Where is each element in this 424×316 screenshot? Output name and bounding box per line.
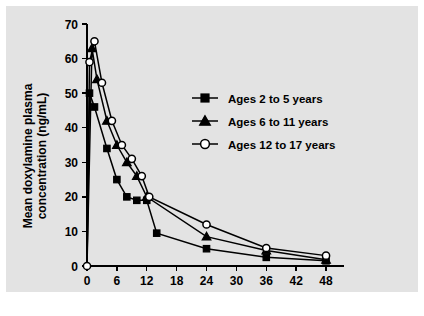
y-axis-title-line1: Mean doxylamine plasma bbox=[21, 83, 35, 228]
chart-legend: Ages 2 to 5 yearsAges 6 to 11 yearsAges … bbox=[192, 93, 335, 151]
marker-open-circle bbox=[83, 262, 90, 269]
marker-open-circle bbox=[91, 38, 98, 45]
x-tick-label: 24 bbox=[200, 274, 214, 288]
legend-label: Ages 12 to 17 years bbox=[228, 139, 335, 151]
marker-filled-square bbox=[104, 145, 110, 151]
marker-open-circle bbox=[146, 193, 153, 200]
marker-open-circle bbox=[322, 252, 329, 259]
x-tick-label: 0 bbox=[84, 274, 91, 288]
marker-filled-square bbox=[263, 254, 269, 260]
marker-filled-square bbox=[124, 194, 130, 200]
x-tick-label: 18 bbox=[170, 274, 184, 288]
x-tick-label: 6 bbox=[114, 274, 121, 288]
x-tick-label: 36 bbox=[260, 274, 274, 288]
marker-filled-square bbox=[114, 176, 120, 182]
y-axis-title: Mean doxylamine plasma concentration (ng… bbox=[21, 83, 49, 228]
legend-entry: Ages 12 to 17 years bbox=[192, 139, 335, 151]
x-tick-label: 42 bbox=[289, 274, 303, 288]
marker-filled-square bbox=[154, 230, 160, 236]
marker-filled-square bbox=[203, 246, 209, 252]
marker-open-circle bbox=[98, 79, 105, 86]
x-axis-ticks: 0612182430364248 bbox=[84, 266, 333, 288]
y-tick-label: 70 bbox=[65, 18, 79, 32]
marker-open-circle bbox=[118, 141, 125, 148]
x-tick-label: 30 bbox=[230, 274, 244, 288]
series-3 bbox=[86, 38, 330, 266]
marker-open-circle bbox=[86, 58, 93, 65]
y-axis-ticks: 010203040506070 bbox=[65, 18, 87, 274]
marker-open-circle bbox=[203, 221, 210, 228]
chart-panel: Mean doxylamine plasma concentration (ng… bbox=[6, 6, 418, 292]
y-tick-label: 40 bbox=[65, 121, 79, 135]
x-tick-label: 48 bbox=[319, 274, 333, 288]
marker-open-circle bbox=[263, 244, 270, 251]
series-2 bbox=[87, 44, 330, 266]
legend-entry: Ages 2 to 5 years bbox=[192, 93, 323, 105]
marker-open-circle bbox=[128, 155, 135, 162]
y-tick-label: 10 bbox=[65, 225, 79, 239]
marker-open-circle bbox=[138, 173, 145, 180]
x-tick-label: 12 bbox=[140, 274, 154, 288]
y-tick-label: 30 bbox=[65, 156, 79, 170]
series-layer bbox=[83, 38, 330, 270]
legend-entry: Ages 6 to 11 years bbox=[192, 116, 328, 128]
y-tick-label: 60 bbox=[65, 52, 79, 66]
marker-open-circle bbox=[108, 117, 115, 124]
marker-filled-square bbox=[134, 197, 140, 203]
pharmacokinetic-line-chart: Mean doxylamine plasma concentration (ng… bbox=[6, 6, 418, 292]
y-tick-label: 0 bbox=[71, 260, 78, 274]
marker-open-circle bbox=[201, 140, 210, 149]
y-tick-label: 20 bbox=[65, 190, 79, 204]
y-tick-label: 50 bbox=[65, 87, 79, 101]
marker-filled-triangle bbox=[202, 232, 211, 240]
legend-label: Ages 6 to 11 years bbox=[228, 116, 328, 128]
marker-filled-square bbox=[91, 104, 97, 110]
y-axis-title-line2: concentration (ng/mL) bbox=[35, 93, 49, 220]
chart-page: Mean doxylamine plasma concentration (ng… bbox=[0, 0, 424, 316]
marker-filled-square bbox=[201, 94, 209, 102]
legend-label: Ages 2 to 5 years bbox=[228, 93, 323, 105]
